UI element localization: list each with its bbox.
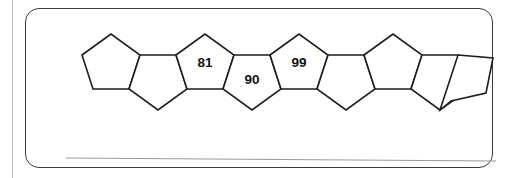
pentagon-3-label: 81 <box>197 55 213 70</box>
answer-blank-line <box>66 157 496 162</box>
pentagon-5-label: 99 <box>291 55 306 70</box>
worksheet-page: 81 90 99 <box>0 0 505 178</box>
page-margin-rule <box>12 0 13 178</box>
problem-box: 81 90 99 <box>25 8 493 168</box>
pentagon-chain-figure: 81 90 99 <box>56 17 501 129</box>
pentagon-4-label: 90 <box>244 72 259 87</box>
